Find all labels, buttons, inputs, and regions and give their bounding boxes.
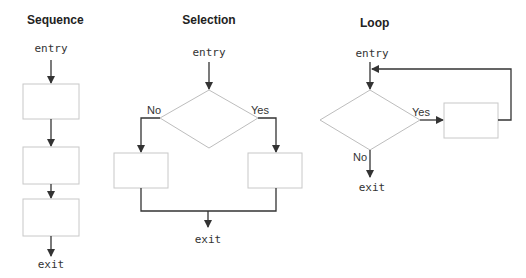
selection-exit-label: exit — [195, 233, 222, 246]
selection-yes-box — [248, 153, 302, 188]
selection-merge-line — [141, 188, 276, 211]
selection-no-label: No — [147, 104, 161, 116]
selection-yes-label: Yes — [251, 104, 269, 116]
selection-yes-arrow — [258, 118, 276, 152]
loop-entry-label: entry — [355, 47, 388, 60]
sequence-box-3 — [23, 199, 79, 236]
sequence-exit-label: exit — [38, 258, 65, 271]
selection-decision-diamond — [160, 90, 258, 148]
sequence-entry-label: entry — [34, 42, 67, 55]
loop-title: Loop — [360, 16, 389, 30]
loop-body-box — [444, 103, 498, 138]
selection-structure: Selection entry No Yes exit — [114, 13, 302, 246]
loop-no-label: No — [353, 151, 367, 163]
loop-exit-label: exit — [359, 181, 386, 194]
selection-title: Selection — [182, 13, 235, 27]
selection-entry-label: entry — [192, 46, 225, 59]
sequence-box-2 — [23, 147, 79, 184]
sequence-structure: Sequence entry exit — [23, 13, 84, 271]
loop-decision-diamond — [320, 90, 420, 150]
selection-no-arrow — [141, 118, 160, 152]
loop-structure: Loop entry Yes No exit — [320, 16, 511, 194]
sequence-box-1 — [23, 84, 79, 119]
sequence-title: Sequence — [27, 13, 84, 27]
control-structures-diagram: Sequence entry exit Selection entry No Y… — [0, 0, 526, 278]
selection-no-box — [114, 153, 168, 188]
loop-yes-label: Yes — [412, 106, 430, 118]
